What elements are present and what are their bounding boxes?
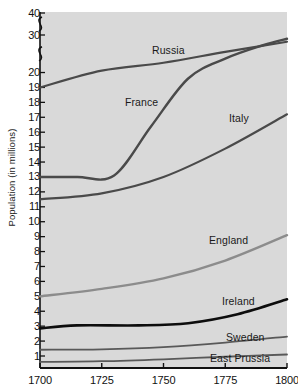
plot-background (40, 12, 287, 368)
series-label-france: France (125, 96, 158, 108)
x-tick-label: 1725 (82, 375, 122, 386)
x-tick-label: 1800 (267, 375, 298, 386)
x-tick-label: 1750 (144, 375, 184, 386)
x-tick-label: 1775 (205, 375, 245, 386)
series-label-sweden: Sweden (226, 331, 265, 343)
series-label-ireland: Ireland (222, 295, 255, 307)
series-label-england: England (209, 234, 248, 246)
population-line-chart: Population (in millions) 123456789101112… (0, 0, 298, 390)
x-tick-label: 1700 (20, 375, 60, 386)
series-label-east-prussia: East Prussia (210, 352, 270, 364)
series-label-italy: Italy (229, 112, 249, 124)
series-label-russia: Russia (152, 44, 185, 56)
